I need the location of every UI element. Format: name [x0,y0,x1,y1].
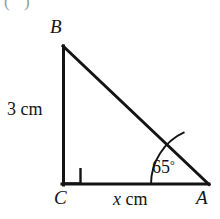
figure-canvas: ( ) B C A 3 cm x cm 65° [0,0,220,219]
side-length-label-3cm: 3 cm [7,100,43,118]
vertex-label-b: B [50,17,62,36]
side-length-variable-x: x [113,189,121,209]
side-length-label-xcm: x cm [113,190,148,208]
side-length-unit-cm: cm [126,189,148,209]
vertex-label-c: C [54,188,67,207]
vertex-label-a: A [196,188,208,207]
side-ab-hypotenuse-line [63,46,209,185]
angle-label-65-degrees: 65° [152,158,175,176]
degree-symbol-icon: ° [170,158,175,172]
angle-value-text: 65 [152,157,170,177]
right-angle-marker-icon [64,168,81,184]
